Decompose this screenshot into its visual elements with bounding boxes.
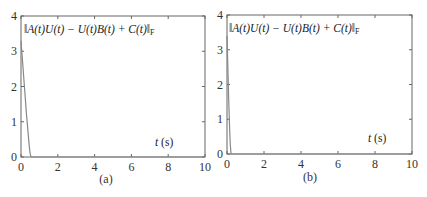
y-tick-label: 3 <box>11 44 17 58</box>
x-tick-label: 2 <box>55 160 61 174</box>
x-tick-label: 2 <box>261 157 267 171</box>
x-tick-label: 4 <box>298 157 304 171</box>
x-tick-label: 6 <box>335 157 341 171</box>
y-tick-label: 1 <box>11 115 17 129</box>
norm-annotation: ‖A(t)U(t) − U(t)B(t) + C(t)‖F <box>229 22 360 36</box>
y-tick-label: 0 <box>11 150 17 164</box>
x-tick-label: 4 <box>92 160 98 174</box>
y-tick-label: 0 <box>217 147 223 161</box>
x-tick-label: 8 <box>372 157 378 171</box>
y-tick-label: 4 <box>11 9 17 23</box>
x-tick-label: 10 <box>406 157 418 171</box>
x-tick-label: 10 <box>199 160 211 174</box>
x-tick-label: 0 <box>224 157 230 171</box>
figure: 024681001234‖A(t)U(t) − U(t)B(t) + C(t)‖… <box>0 0 427 197</box>
x-tick-label: 6 <box>128 160 134 174</box>
chart-panel-b: 024681001234‖A(t)U(t) − U(t)B(t) + C(t)‖… <box>217 8 418 184</box>
data-line <box>21 41 205 157</box>
chart-panel-a: 024681001234‖A(t)U(t) − U(t)B(t) + C(t)‖… <box>11 9 211 186</box>
y-tick-label: 2 <box>11 80 17 94</box>
y-tick-label: 3 <box>217 43 223 57</box>
y-tick-label: 2 <box>217 78 223 92</box>
plot-frame <box>21 16 205 157</box>
norm-annotation: ‖A(t)U(t) − U(t)B(t) + C(t)‖F <box>24 23 155 37</box>
y-tick-label: 1 <box>217 112 223 126</box>
x-tick-label: 8 <box>165 160 171 174</box>
x-tick-label: 0 <box>18 160 24 174</box>
panel-label: (b) <box>303 170 317 184</box>
panel-label: (a) <box>99 172 112 186</box>
x-axis-label: t (s) <box>155 136 173 149</box>
y-tick-label: 4 <box>217 8 223 22</box>
x-axis-label: t (s) <box>368 132 386 145</box>
